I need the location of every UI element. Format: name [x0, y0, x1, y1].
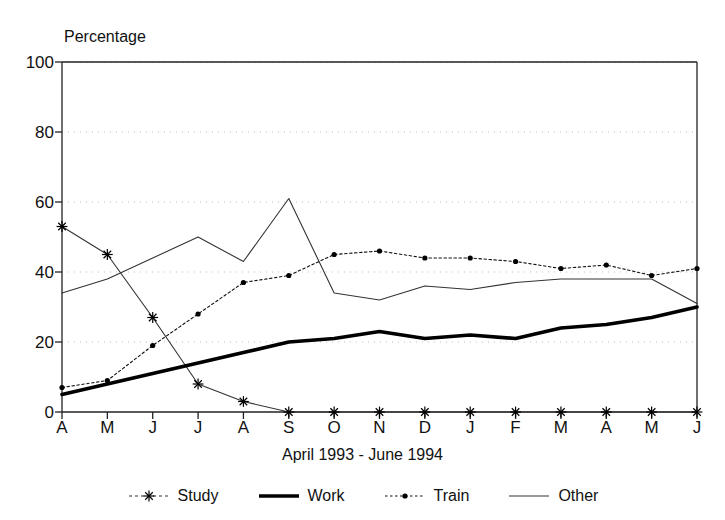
data-point-marker: [694, 266, 699, 271]
plot-area: [0, 0, 725, 520]
y-axis-tick-label: 20: [8, 333, 54, 353]
data-point-marker: [377, 248, 382, 253]
x-axis-tick-label: A: [228, 418, 258, 438]
x-axis-tick-label: S: [274, 418, 304, 438]
line-chart: Percentage 020406080100 AMJJASONDJFMAMJ …: [0, 0, 725, 520]
x-axis-tick-label: M: [92, 418, 122, 438]
legend-item-study[interactable]: Study: [127, 487, 219, 505]
data-point-marker: [286, 273, 291, 278]
legend-label: Train: [434, 487, 470, 505]
y-axis-tick-label: 80: [8, 123, 54, 143]
data-point-marker: [513, 259, 518, 264]
data-point-marker: [195, 311, 200, 316]
x-axis-tick-label: J: [183, 418, 213, 438]
x-axis-tick-label: A: [47, 418, 77, 438]
x-axis-tick-label: O: [319, 418, 349, 438]
x-axis-tick-label: J: [455, 418, 485, 438]
legend-item-train[interactable]: Train: [383, 487, 470, 505]
series-train: [59, 248, 699, 390]
data-point-marker: [649, 273, 654, 278]
data-point-marker: [558, 266, 563, 271]
thin-line-icon: [507, 488, 551, 504]
x-axis-tick-label: M: [546, 418, 576, 438]
x-axis-tick-label: D: [410, 418, 440, 438]
x-axis-tick-label: M: [637, 418, 667, 438]
legend-label: Work: [308, 487, 345, 505]
series-line: [62, 227, 697, 413]
x-axis-tick-label: J: [682, 418, 712, 438]
series-line: [62, 307, 697, 395]
y-axis-tick-label: 100: [8, 53, 54, 73]
data-point-marker: [59, 385, 64, 390]
legend-label: Other: [558, 487, 598, 505]
x-axis-tick-label: J: [138, 418, 168, 438]
x-axis-title: April 1993 - June 1994: [0, 446, 725, 464]
chart-legend: StudyWorkTrainOther: [0, 487, 725, 505]
y-axis-tick-label: 40: [8, 263, 54, 283]
data-point-marker: [332, 252, 337, 257]
data-point-marker: [422, 255, 427, 260]
y-axis-title: Percentage: [64, 28, 146, 46]
data-point-marker: [105, 378, 110, 383]
x-axis-tick-label: N: [365, 418, 395, 438]
x-axis-tick-label: A: [591, 418, 621, 438]
data-point-marker: [604, 262, 609, 267]
legend-item-other[interactable]: Other: [507, 487, 598, 505]
legend-label: Study: [178, 487, 219, 505]
x-axis-tick-label: F: [501, 418, 531, 438]
thick-line-icon: [257, 488, 301, 504]
legend-item-work[interactable]: Work: [257, 487, 345, 505]
asterisk-marker-icon: [127, 488, 171, 504]
dotted-dot-marker-icon: [383, 488, 427, 504]
y-axis-tick-label: 60: [8, 193, 54, 213]
series-work: [62, 307, 697, 395]
data-point-marker: [241, 280, 246, 285]
series-line: [62, 251, 697, 388]
data-point-marker: [150, 343, 155, 348]
data-point-marker: [468, 255, 473, 260]
